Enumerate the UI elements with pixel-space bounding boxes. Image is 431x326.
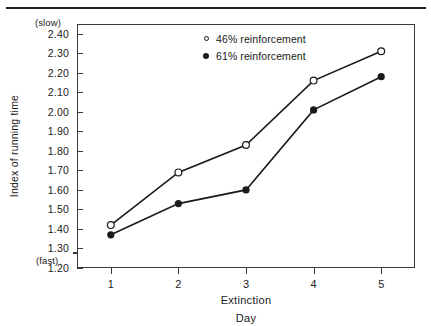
series-line bbox=[111, 51, 381, 225]
data-point-open-circle bbox=[175, 169, 182, 176]
data-point-open-circle bbox=[378, 48, 385, 55]
data-point-open-circle bbox=[107, 222, 114, 229]
series-layer bbox=[0, 0, 431, 326]
data-point-filled-circle bbox=[242, 186, 249, 193]
data-point-open-circle bbox=[310, 77, 317, 84]
figure: (slow) (fast) Index of running time 1.20… bbox=[0, 0, 431, 326]
data-point-filled-circle bbox=[107, 231, 114, 238]
data-point-filled-circle bbox=[175, 200, 182, 207]
data-point-open-circle bbox=[243, 142, 250, 149]
data-point-filled-circle bbox=[310, 106, 317, 113]
series-line bbox=[111, 77, 381, 235]
data-point-filled-circle bbox=[378, 73, 385, 80]
